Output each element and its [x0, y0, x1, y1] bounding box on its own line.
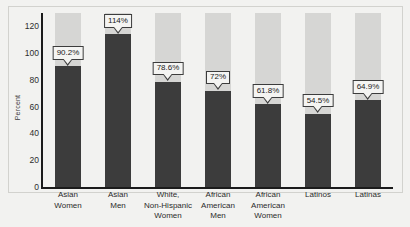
callout-pointer-icon: [363, 93, 373, 100]
category-label: AsianMen: [108, 190, 128, 211]
value-callout: 114%: [104, 14, 132, 27]
value-callout: 61.8%: [253, 84, 284, 97]
callout-pointer-icon: [63, 59, 73, 66]
category-label-line: Non-Hispanic: [144, 201, 192, 212]
category-label-line: African: [201, 190, 235, 201]
plot-area: 90.2%114%78.6%72%61.8%54.5%64.9%: [43, 13, 393, 187]
value-label: 90.2%: [57, 48, 80, 57]
category-label-line: Men: [201, 211, 235, 222]
bar-group: [355, 13, 381, 187]
category-label-line: Women: [251, 211, 285, 222]
y-axis-tick-100: 100: [3, 48, 39, 58]
callout-pointer-icon: [113, 27, 123, 34]
bar-value: [55, 66, 81, 187]
value-label: 78.6%: [157, 63, 180, 72]
value-callout: 78.6%: [153, 62, 184, 75]
value-callout: 54.5%: [303, 94, 334, 107]
category-label-line: American: [251, 201, 285, 212]
category-label: AfricanAmericanMen: [201, 190, 235, 222]
category-label-line: Women: [144, 211, 192, 222]
bar-value: [255, 104, 281, 187]
value-label: 61.8%: [257, 86, 280, 95]
y-axis-tick-60: 60: [3, 102, 39, 112]
bar-group: [155, 13, 181, 187]
category-label-line: Asian: [54, 190, 81, 201]
y-axis-tick-labels: 020406080100120: [0, 0, 39, 227]
category-label-line: American: [201, 201, 235, 212]
y-axis-tick-40: 40: [3, 128, 39, 138]
bar-value: [105, 34, 131, 187]
value-label: 72%: [210, 72, 226, 81]
category-label: Latinos: [305, 190, 331, 201]
value-label: 64.9%: [357, 82, 380, 91]
category-label: AsianWomen: [54, 190, 81, 211]
bar-value: [205, 91, 231, 187]
value-callout: 72%: [206, 71, 230, 84]
category-label-line: African: [251, 190, 285, 201]
category-label-line: Men: [108, 201, 128, 212]
bar-value: [305, 114, 331, 187]
bar-value: [355, 100, 381, 187]
y-axis-tick-80: 80: [3, 75, 39, 85]
value-callout: 90.2%: [53, 46, 84, 59]
callout-pointer-icon: [163, 74, 173, 81]
category-label: AfricanAmericanWomen: [251, 190, 285, 222]
y-axis-tick-120: 120: [3, 21, 39, 31]
category-label-line: White,: [144, 190, 192, 201]
x-axis-category-labels: AsianWomenAsianMenWhite,Non-HispanicWome…: [43, 190, 393, 226]
value-label: 114%: [108, 16, 128, 25]
callout-pointer-icon: [313, 106, 323, 113]
bar-value: [155, 82, 181, 187]
category-label-line: Latinos: [305, 190, 331, 201]
y-axis-tick-20: 20: [3, 155, 39, 165]
category-label-line: Asian: [108, 190, 128, 201]
value-callout: 64.9%: [353, 80, 384, 93]
callout-pointer-icon: [213, 83, 223, 90]
y-axis-tick-0: 0: [3, 182, 39, 192]
bar-group: [55, 13, 81, 187]
category-label: Latinas: [355, 190, 381, 201]
callout-pointer-icon: [263, 97, 273, 104]
category-label-line: Women: [54, 201, 81, 212]
x-axis-line: [41, 187, 393, 189]
bar-group: [105, 13, 131, 187]
bar-group: [205, 13, 231, 187]
bar-chart: Percent 020406080100120 90.2%114%78.6%72…: [0, 0, 410, 227]
category-label-line: Latinas: [355, 190, 381, 201]
category-label: White,Non-HispanicWomen: [144, 190, 192, 222]
value-label: 54.5%: [307, 96, 330, 105]
